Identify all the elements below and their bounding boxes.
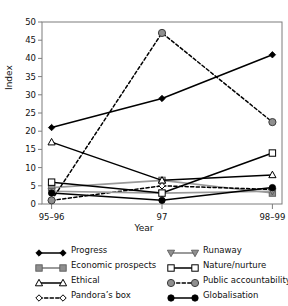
legend-column-right: RunawayNature/nurturePublic accountabili… <box>166 243 288 303</box>
legend-column-left: ProgressEconomic prospectsEthicalPandora… <box>34 243 158 303</box>
legend-swatch <box>166 292 200 304</box>
legend-swatch <box>166 247 200 259</box>
y-tick-label: 35 <box>25 72 36 82</box>
data-point <box>269 184 275 190</box>
legend-label: Globalisation <box>200 289 258 301</box>
legend-swatch <box>34 292 68 304</box>
legend-label: Pandora’s box <box>68 289 131 301</box>
y-tick-label: 40 <box>25 53 36 63</box>
y-tick-label: 45 <box>25 35 36 45</box>
legend-marker-icon <box>34 259 68 271</box>
y-tick-label: 25 <box>25 108 36 118</box>
legend-item-ethical[interactable]: Ethical <box>34 273 158 287</box>
legend-item-nature-nurture[interactable]: Nature/nurture <box>166 258 288 272</box>
legend-swatch <box>34 277 68 289</box>
legend-item-public-accountability[interactable]: Public accountability <box>166 273 288 287</box>
plot-svg: 0510152025303540455095–969798–99 <box>0 0 288 240</box>
chart-figure: Index 0510152025303540455095–969798–99 Y… <box>0 0 288 306</box>
data-point <box>48 124 54 130</box>
series-layer <box>48 29 276 204</box>
legend-label: Economic prospects <box>68 259 156 271</box>
legend-label: Nature/nurture <box>200 259 266 271</box>
legend-label: Ethical <box>68 274 100 286</box>
legend-marker-icon <box>34 244 68 256</box>
legend-item-globalisation[interactable]: Globalisation <box>166 288 288 302</box>
y-tick-label: 50 <box>25 17 36 27</box>
x-tick-label: 97 <box>157 212 168 222</box>
legend-marker-icon <box>166 259 200 271</box>
legend-swatch <box>34 247 68 259</box>
series-line <box>52 33 273 200</box>
legend-marker-icon <box>166 244 200 256</box>
legend-swatch <box>166 262 200 274</box>
legend-swatch <box>166 277 200 289</box>
plot-area: 0510152025303540455095–969798–99 <box>0 0 288 240</box>
legend-item-progress[interactable]: Progress <box>34 243 158 257</box>
x-axis-label: Year <box>0 223 288 233</box>
data-point <box>48 190 54 196</box>
data-point <box>158 29 165 36</box>
legend-swatch <box>34 262 68 274</box>
series-progress <box>48 52 275 131</box>
legend-marker-icon <box>166 274 200 286</box>
data-point <box>159 197 165 203</box>
data-point <box>159 95 165 101</box>
data-point <box>159 190 165 196</box>
legend-marker-icon <box>34 289 68 301</box>
legend-label: Runaway <box>200 244 242 256</box>
y-tick-label: 5 <box>31 181 36 191</box>
y-tick-label: 10 <box>25 163 36 173</box>
chart-legend: ProgressEconomic prospectsEthicalPandora… <box>26 243 282 303</box>
data-point <box>48 197 55 204</box>
data-point <box>48 138 55 145</box>
data-point <box>48 179 54 185</box>
series-ethical <box>48 138 276 183</box>
legend-label: Public accountability <box>200 274 288 286</box>
data-point <box>269 52 275 58</box>
legend-item-runaway[interactable]: Runaway <box>166 243 288 257</box>
legend-item-economic-prospects[interactable]: Economic prospects <box>34 258 158 272</box>
data-point <box>269 150 275 156</box>
x-tick-label: 95–96 <box>39 212 65 222</box>
y-tick-label: 0 <box>31 199 36 209</box>
legend-marker-icon <box>166 289 200 301</box>
legend-item-pandora-s-box[interactable]: Pandora’s box <box>34 288 158 302</box>
x-tick-label: 98–99 <box>259 212 285 222</box>
legend-marker-icon <box>34 274 68 286</box>
series-line <box>52 142 273 180</box>
legend-label: Progress <box>68 244 107 256</box>
y-tick-label: 15 <box>25 144 36 154</box>
x-axis-label-text: Year <box>134 223 153 233</box>
y-tick-label: 30 <box>25 90 36 100</box>
series-line <box>52 55 273 128</box>
y-tick-label: 20 <box>25 126 36 136</box>
data-point <box>269 119 276 126</box>
